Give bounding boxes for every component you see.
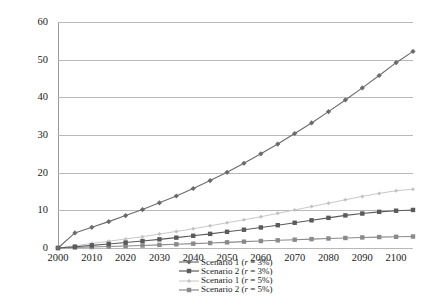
- chart-legend: Scenario 1 (r = 3%)Scenario 2 (r = 3%)Sc…: [178, 258, 338, 295]
- y-tick-label: 40: [2, 92, 48, 103]
- x-tick-label: 2100: [373, 252, 419, 263]
- legend-marker-icon: [178, 286, 200, 294]
- legend-marker-icon: [178, 258, 200, 266]
- data-series-layer: [58, 22, 413, 248]
- legend-marker-icon: [178, 267, 200, 275]
- series-2: [56, 208, 415, 250]
- legend-marker-icon: [178, 277, 200, 285]
- series-1: [55, 49, 415, 251]
- y-tick-label: 60: [2, 17, 48, 28]
- plot-area: [58, 22, 413, 248]
- y-tick-label: 50: [2, 55, 48, 66]
- legend-item-4: Scenario 2 (r = 5%): [178, 286, 338, 295]
- line-chart: 0102030405060 20002010202020302040205020…: [0, 0, 435, 305]
- y-tick-label: 30: [2, 130, 48, 141]
- y-tick-label: 20: [2, 168, 48, 179]
- y-tick-label: 10: [2, 205, 48, 216]
- series-3: [56, 187, 415, 250]
- gridline-y-0: [58, 248, 413, 249]
- legend-item-label: Scenario 2 (r = 5%): [201, 285, 273, 294]
